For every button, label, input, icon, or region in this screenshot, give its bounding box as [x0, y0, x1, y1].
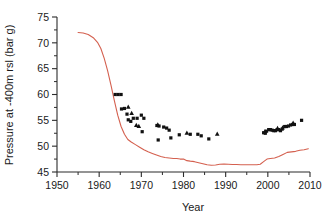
data-point-square [178, 133, 181, 136]
data-point-square [123, 107, 126, 110]
y-tick-label: 60 [37, 88, 49, 100]
data-point-triangle [129, 111, 134, 115]
data-point-square [189, 133, 192, 136]
data-point-triangle [275, 126, 280, 130]
x-tick-label: 2000 [256, 179, 280, 191]
data-point-square [132, 117, 135, 120]
data-point-square [129, 120, 132, 123]
data-point-square [142, 117, 145, 120]
series-group [78, 33, 308, 166]
data-point-square [141, 130, 144, 133]
x-axis-title: Year [182, 201, 205, 213]
y-tick-label: 50 [37, 140, 49, 152]
data-point-triangle [185, 130, 190, 134]
data-point-square [196, 133, 199, 136]
x-tick-label: 1970 [130, 179, 154, 191]
data-point-triangle [291, 121, 296, 125]
data-point-square [117, 93, 120, 96]
axis-group: 4550556065707519501960197019801990200020… [37, 11, 322, 191]
data-point-square [168, 129, 171, 132]
data-point-square [157, 138, 160, 141]
data-point-triangle [215, 131, 220, 135]
x-tick-label: 1990 [214, 179, 238, 191]
y-axis-title: Pressure at -400m rsl (bar g) [3, 25, 15, 166]
data-point-square [200, 134, 203, 137]
data-point-square [119, 93, 122, 96]
y-tick-label: 45 [37, 166, 49, 178]
data-point-triangle [126, 105, 131, 109]
series-scatter-squares [114, 93, 304, 142]
y-tick-label: 70 [37, 37, 49, 49]
x-tick-label: 1980 [172, 179, 196, 191]
data-point-square [169, 136, 172, 139]
pressure-vs-year-chart: 4550556065707519501960197019801990200020… [0, 0, 326, 216]
series-line-modelled-pressure [78, 33, 308, 166]
x-tick-label: 1950 [45, 179, 69, 191]
data-point-square [162, 125, 165, 128]
data-point-square [125, 113, 128, 116]
x-tick-label: 2010 [298, 179, 322, 191]
chart-canvas: 4550556065707519501960197019801990200020… [0, 0, 326, 216]
data-point-square [120, 107, 123, 110]
y-tick-label: 65 [37, 62, 49, 74]
data-point-square [300, 119, 303, 122]
data-point-square [114, 93, 117, 96]
data-point-square [207, 137, 210, 140]
x-tick-label: 1960 [87, 179, 111, 191]
data-point-square [140, 114, 143, 117]
y-tick-label: 55 [37, 114, 49, 126]
y-tick-label: 75 [37, 11, 49, 23]
data-point-square [136, 117, 139, 120]
